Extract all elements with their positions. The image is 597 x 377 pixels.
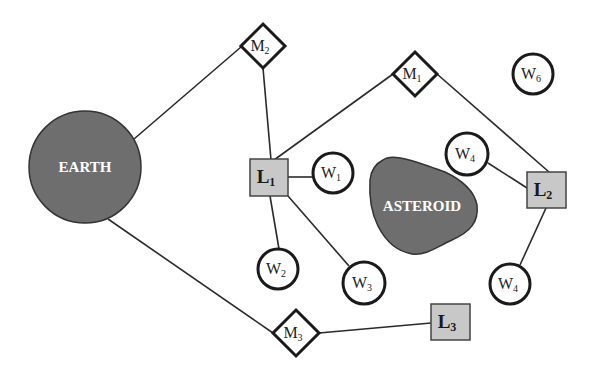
lander-l3[interactable]: L3 — [431, 304, 470, 340]
worker-w3[interactable]: W3 — [343, 262, 385, 304]
earth-label: EARTH — [59, 159, 112, 175]
worker-w1[interactable]: W1 — [313, 153, 353, 193]
asteroid-label: ASTEROID — [383, 198, 462, 214]
worker-w4-top[interactable]: W4 — [446, 133, 488, 175]
network-diagram: EARTH ASTEROID M2 M1 M3 L1 L2 L3 W1 W2 — [0, 0, 597, 377]
lander-l2[interactable]: L2 — [527, 172, 566, 208]
worker-w4-bottom[interactable]: W4 — [490, 264, 530, 304]
lander-l1[interactable]: L1 — [250, 159, 288, 196]
worker-w2[interactable]: W2 — [258, 249, 298, 289]
worker-w6[interactable]: W6 — [513, 54, 553, 94]
earth-node[interactable]: EARTH — [29, 111, 141, 223]
